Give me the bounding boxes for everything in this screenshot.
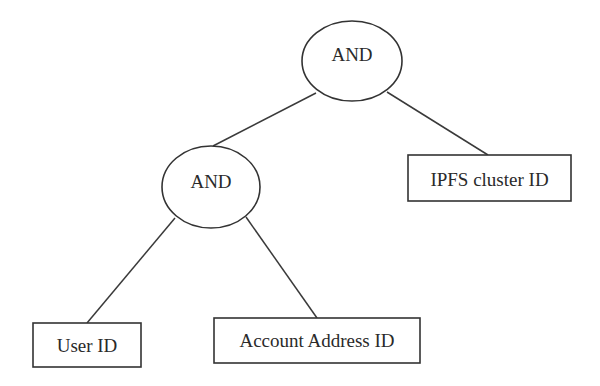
node-root-and: AND	[302, 21, 402, 101]
edge-root-to-ipfs	[387, 92, 488, 155]
ipfs-cluster-id-label: IPFS cluster ID	[430, 169, 548, 190]
edge-root-to-and2	[213, 93, 316, 146]
and-tree-diagram: AND AND IPFS cluster ID User ID Account …	[0, 0, 600, 386]
node-and2: AND	[162, 146, 260, 228]
node-ipfs-cluster-id: IPFS cluster ID	[408, 155, 571, 201]
account-address-id-label: Account Address ID	[239, 330, 394, 351]
node-user-id: User ID	[33, 323, 141, 367]
edge-and2-to-account	[246, 217, 317, 318]
root-and-label: AND	[331, 44, 372, 65]
edge-and2-to-user	[87, 218, 175, 323]
user-id-label: User ID	[57, 335, 118, 356]
and2-label: AND	[190, 171, 231, 192]
node-account-address-id: Account Address ID	[214, 318, 420, 363]
